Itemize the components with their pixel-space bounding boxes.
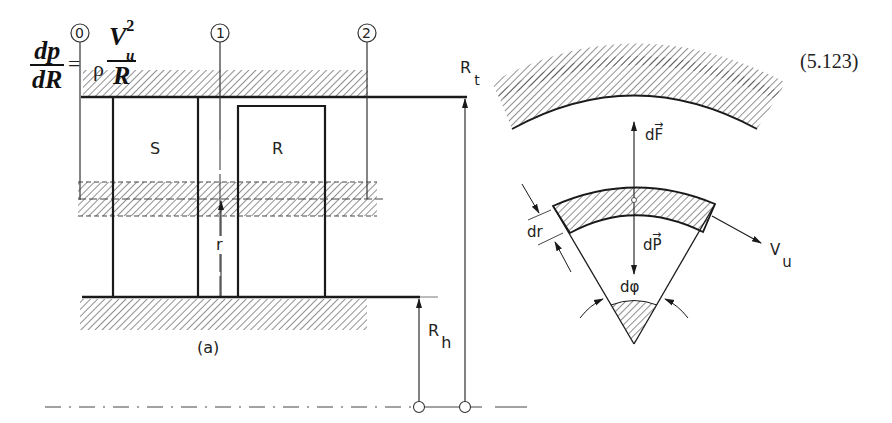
angle-dphi-hatch <box>611 301 657 345</box>
station-2-label: 2 <box>362 26 371 40</box>
equation-number: (5.123) <box>800 51 858 71</box>
lhs-denominator: dR <box>30 66 64 93</box>
fluid-element-view <box>492 44 785 345</box>
angle-arrow-right <box>665 299 688 318</box>
force-df-label: dF → <box>645 128 663 143</box>
velocity-vu-label: Vu <box>770 243 789 258</box>
tip-radius-origin <box>460 402 471 413</box>
rhs-denominator: R <box>111 62 132 89</box>
station-0-label: 0 <box>75 26 84 40</box>
tip-radius-label: Rt <box>460 60 477 76</box>
equals-sign: = <box>68 53 80 75</box>
station-1-label: 1 <box>216 26 225 40</box>
angle-arrow-left <box>580 299 603 318</box>
velocity-vu-arrow <box>712 216 761 243</box>
hub-hatch <box>80 299 367 330</box>
rhs-numerator: V2u <box>107 22 136 50</box>
hub-radius-origin <box>414 402 425 413</box>
rhs-fraction: V2u R <box>107 22 136 89</box>
lhs-numerator: dp <box>32 37 62 64</box>
stator-label: S <box>150 141 160 157</box>
dr-arrow-bottom <box>555 242 571 272</box>
lhs-fraction: dp dR <box>30 37 64 94</box>
station-2 <box>358 24 376 199</box>
hub-radius-label: Rh <box>428 323 449 339</box>
rotor-label: R <box>272 141 283 157</box>
rho-symbol: ρ <box>93 58 104 80</box>
angle-dphi-label: dφ <box>620 280 639 295</box>
radius-r-label: r <box>215 236 224 254</box>
dr-arrow-top <box>522 184 539 213</box>
figure-a-caption: (a) <box>197 340 219 356</box>
force-dp-label: dP → <box>643 238 662 253</box>
thickness-dr-label: dr <box>527 225 543 240</box>
